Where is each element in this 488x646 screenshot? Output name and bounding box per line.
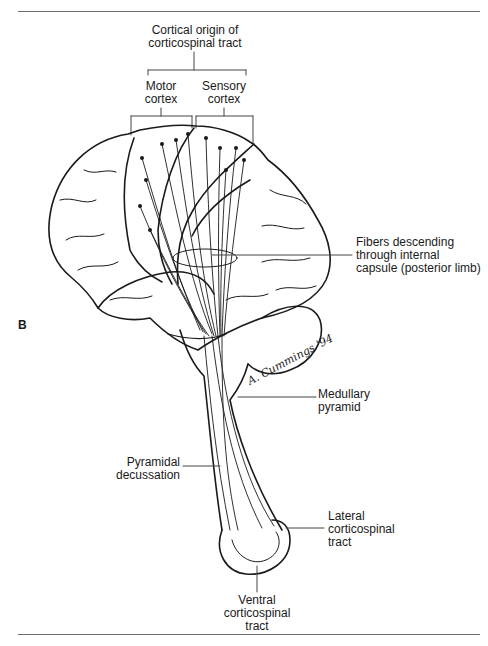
decussation-line-2: decussation xyxy=(96,469,180,482)
brainstem xyxy=(180,330,282,530)
artist-signature: A. Cummings '94 xyxy=(244,332,335,389)
lateral-line-3: tract xyxy=(328,536,428,549)
motor-label-line-2: cortex xyxy=(134,93,188,106)
sensory-label-line-2: cortex xyxy=(196,93,252,106)
medullary-pyramid-callout: Medullary pyramid xyxy=(318,388,408,414)
cerebrum-outline xyxy=(49,125,330,350)
internal-capsule-callout: Fibers descending through internal capsu… xyxy=(356,236,486,275)
panel-letter: B xyxy=(18,318,27,332)
header-label: Cortical origin of corticospinal tract xyxy=(130,24,260,50)
capsule-line-3: capsule (posterior limb) xyxy=(356,262,486,275)
ventral-line-3: tract xyxy=(212,620,302,633)
header-line-2: corticospinal tract xyxy=(130,37,260,50)
lateral-tract-callout: Lateral corticospinal tract xyxy=(328,510,428,549)
motor-cortex-label: Motor cortex xyxy=(134,80,188,106)
pyramid-line-2: pyramid xyxy=(318,401,408,414)
ventral-tract-callout: Ventral corticospinal tract xyxy=(212,594,302,633)
pyramidal-decussation-callout: Pyramidal decussation xyxy=(96,456,180,482)
gyri-texture xyxy=(60,170,316,300)
sensory-cortex-label: Sensory cortex xyxy=(196,80,252,106)
